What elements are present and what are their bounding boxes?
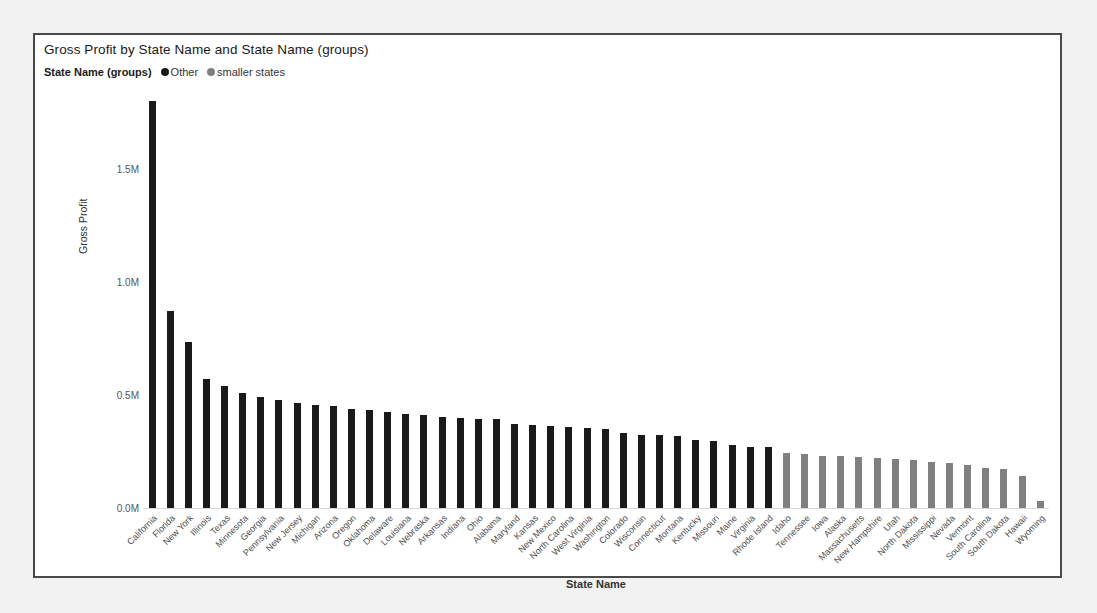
chart-container: Gross Profit by State Name and State Nam… [33,33,1062,578]
legend-swatch-icon [207,68,215,76]
bar-slot [651,90,669,508]
bar[interactable] [366,410,373,508]
bar-slot [977,90,995,508]
bar-slot [868,90,886,508]
bar[interactable] [620,433,627,508]
bar[interactable] [457,418,464,508]
x-axis-tick: Missouri [705,510,723,572]
bar[interactable] [565,427,572,508]
bar[interactable] [1000,469,1007,508]
bar[interactable] [330,406,337,508]
bar[interactable] [439,417,446,509]
bar-slot [705,90,723,508]
bar[interactable] [149,101,156,508]
bar-slot [796,90,814,508]
bar[interactable] [874,458,881,508]
chart-title: Gross Profit by State Name and State Nam… [44,42,369,57]
y-axis-title-text: Gross Profit [77,240,89,254]
bar-slot [270,90,288,508]
bar[interactable] [402,414,409,508]
bar[interactable] [892,459,899,508]
bar[interactable] [185,342,192,508]
bar[interactable] [801,454,808,508]
bar[interactable] [710,441,717,508]
bar[interactable] [928,462,935,508]
bar[interactable] [602,429,609,508]
legend-item-smaller-states[interactable]: smaller states [207,66,285,78]
bar-slot [542,90,560,508]
bar-slot [469,90,487,508]
x-axis-title: State Name [143,578,1049,590]
bar[interactable] [783,453,790,508]
x-axis-tick: Indiana [451,510,469,572]
bar[interactable] [511,424,518,508]
bar[interactable] [946,463,953,508]
x-axis-tick: Arkansas [433,510,451,572]
legend-label: Other [171,66,199,78]
bar[interactable] [294,403,301,508]
bar[interactable] [420,415,427,508]
bar[interactable] [547,426,554,508]
bar[interactable] [167,311,174,508]
bar[interactable] [910,460,917,508]
x-axis-ticks: CaliforniaFloridaNew YorkIllinoisTexasMi… [143,510,1049,572]
bar[interactable] [837,456,844,508]
bar-slot [1031,90,1049,508]
bar-slot [850,90,868,508]
x-axis-tick: Illinois [197,510,215,572]
bar[interactable] [221,386,228,508]
bar[interactable] [203,379,210,508]
x-axis-tick: Wyoming [1031,510,1049,572]
bar[interactable] [656,435,663,508]
x-axis-tick: Tennessee [796,510,814,572]
bar[interactable] [747,447,754,508]
bar-slot [433,90,451,508]
bar[interactable] [964,465,971,508]
legend-swatch-icon [161,68,169,76]
bar[interactable] [692,440,699,508]
bar-slot [596,90,614,508]
bar-slot [687,90,705,508]
bar-slot [324,90,342,508]
bar[interactable] [275,400,282,508]
bar[interactable] [312,405,319,508]
bar[interactable] [729,445,736,508]
y-axis-tick-label: 0.0M [93,503,139,514]
bar-slot [252,90,270,508]
bar[interactable] [348,409,355,508]
x-axis-tick: Mississippi [922,510,940,572]
bar[interactable] [1019,476,1026,508]
bar-slot [814,90,832,508]
bar-slot [777,90,795,508]
y-axis-tick-label: 1.0M [93,277,139,288]
bar[interactable] [855,457,862,508]
bar-slot [560,90,578,508]
bar[interactable] [674,436,681,508]
y-axis-ticks: 0.0M0.5M1.0M1.5M [93,90,139,508]
bar[interactable] [819,456,826,508]
x-axis-tick: Rhode Island [759,510,777,572]
bar[interactable] [475,419,482,508]
bar[interactable] [638,435,645,508]
bar[interactable] [584,428,591,508]
bar[interactable] [239,393,246,508]
y-axis-title: Gross Profit [77,226,89,240]
bar-series [143,90,1049,508]
bar-slot [904,90,922,508]
bar-slot [143,90,161,508]
bar-slot [741,90,759,508]
bar[interactable] [1037,501,1044,508]
bar[interactable] [982,468,989,508]
y-axis-tick-label: 1.5M [93,164,139,175]
bar[interactable] [384,412,391,508]
bar-slot [614,90,632,508]
bar-slot [415,90,433,508]
legend-item-other[interactable]: Other [161,66,199,78]
bar[interactable] [493,419,500,508]
bar[interactable] [257,397,264,508]
bar[interactable] [529,425,536,508]
bar-slot [922,90,940,508]
bar-slot [632,90,650,508]
bar[interactable] [765,447,772,508]
legend-label: smaller states [217,66,285,78]
